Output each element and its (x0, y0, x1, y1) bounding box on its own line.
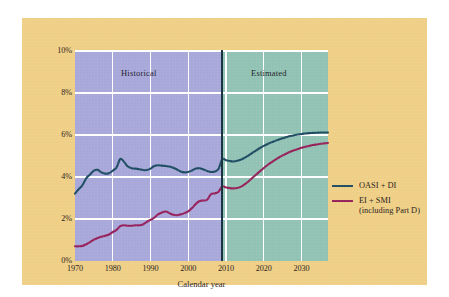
chart-legend: OASI + DIEI + SMI(including Part D) (332, 181, 444, 221)
x-tick-2000: 2000 (180, 264, 196, 273)
y-tick-6%: 6% (46, 131, 72, 139)
x-axis-label: Calendar year (75, 279, 328, 289)
y-axis: 0%2%4%6%8%10% (44, 51, 72, 261)
historical-estimated-divider (221, 50, 223, 261)
series-line-ei-smi (75, 143, 328, 246)
legend-swatch-icon (332, 185, 353, 187)
legend-item-ei-smi[interactable]: EI + SMI(including Part D) (332, 196, 444, 217)
x-axis: 1970198019902000201020202030 (75, 264, 337, 278)
x-tick-2030: 2030 (294, 264, 310, 273)
y-tick-8%: 8% (46, 89, 72, 97)
y-tick-2%: 2% (46, 215, 72, 223)
y-tick-4%: 4% (46, 173, 72, 181)
x-tick-1980: 1980 (105, 264, 121, 273)
chart-page: 0%2%4%6%8%10% Historical Estimated 19701… (0, 0, 449, 297)
legend-sublabel: (including Part D) (359, 206, 420, 217)
x-tick-1990: 1990 (143, 264, 159, 273)
y-tick-10%: 10% (46, 47, 72, 55)
region-label-estimated: Estimated (251, 68, 287, 78)
x-tick-2020: 2020 (256, 264, 272, 273)
chart-card: 0%2%4%6%8%10% Historical Estimated 19701… (22, 18, 427, 285)
region-label-historical: Historical (121, 68, 157, 78)
legend-label: OASI + DI (359, 181, 396, 192)
legend-label: EI + SMI(including Part D) (359, 196, 420, 217)
legend-swatch-icon (332, 200, 353, 202)
series-lines (75, 51, 328, 261)
legend-item-oasi-di[interactable]: OASI + DI (332, 181, 444, 192)
x-tick-2010: 2010 (218, 264, 234, 273)
x-tick-1970: 1970 (67, 264, 83, 273)
series-line-oasi-di (75, 132, 328, 193)
plot-area: Historical Estimated (75, 51, 328, 261)
